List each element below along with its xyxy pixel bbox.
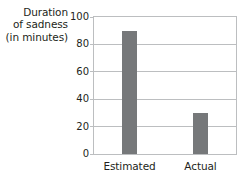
gridline	[94, 126, 236, 127]
y-axis-title: Duration of sadness (in minutes)	[0, 6, 68, 43]
y-axis-tick-label: 40	[76, 94, 89, 104]
x-axis-tick-label: Actual	[184, 160, 216, 172]
gridline	[94, 71, 236, 72]
y-axis-tick-mark	[90, 71, 94, 72]
y-axis-title-line-2: of sadness	[0, 18, 68, 30]
plot-area: 020406080100EstimatedActual	[93, 16, 237, 155]
y-axis-tick-mark	[90, 44, 94, 45]
x-axis-tick-label: Estimated	[103, 160, 155, 172]
y-axis-tick-mark	[90, 17, 94, 18]
y-axis-tick-label: 100	[70, 12, 89, 22]
y-axis-tick-label: 0	[83, 149, 89, 159]
bar-chart-figure: Duration of sadness (in minutes) 0204060…	[0, 0, 247, 183]
bar-actual	[193, 113, 208, 154]
y-axis-tick-label: 60	[76, 67, 89, 77]
bar-estimated	[122, 31, 137, 154]
y-axis-tick-label: 80	[76, 39, 89, 49]
y-axis-title-line-1: Duration	[0, 6, 68, 18]
y-axis-tick-mark	[90, 99, 94, 100]
y-axis-title-line-3: (in minutes)	[0, 31, 68, 43]
gridline	[94, 44, 236, 45]
gridline	[94, 99, 236, 100]
y-axis-tick-label: 20	[76, 122, 89, 132]
y-axis-tick-mark	[90, 126, 94, 127]
y-axis-tick-mark	[90, 154, 94, 155]
